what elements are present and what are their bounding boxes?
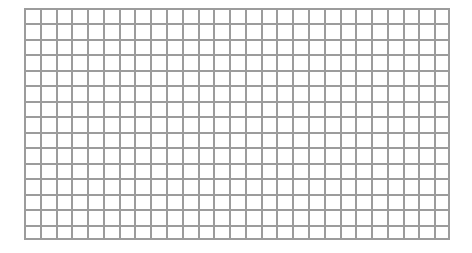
screenshot-canvas <box>0 0 472 253</box>
grid-sheet[interactable] <box>24 8 450 240</box>
